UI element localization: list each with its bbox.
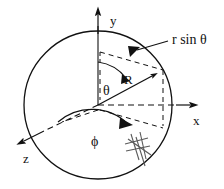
r-sin-theta-label: r sin θ: [172, 32, 207, 47]
x-axis-label: x: [193, 113, 200, 128]
diagram-canvas: y x z θ ϕ R r sin θ: [0, 0, 224, 189]
r-sin-theta-leader-arrowhead: [128, 46, 140, 57]
phi-label: ϕ: [91, 134, 98, 149]
phi-arc-arrowhead: [119, 118, 133, 129]
phi-arc: [58, 109, 128, 124]
z-axis-label: z: [23, 151, 29, 166]
radius-vector-label: R: [124, 72, 133, 87]
spherical-coordinates-figure: y x z θ ϕ R r sin θ: [0, 0, 224, 189]
theta-arc: [98, 62, 126, 78]
theta-label: θ: [103, 83, 110, 98]
y-axis-label: y: [110, 13, 117, 28]
